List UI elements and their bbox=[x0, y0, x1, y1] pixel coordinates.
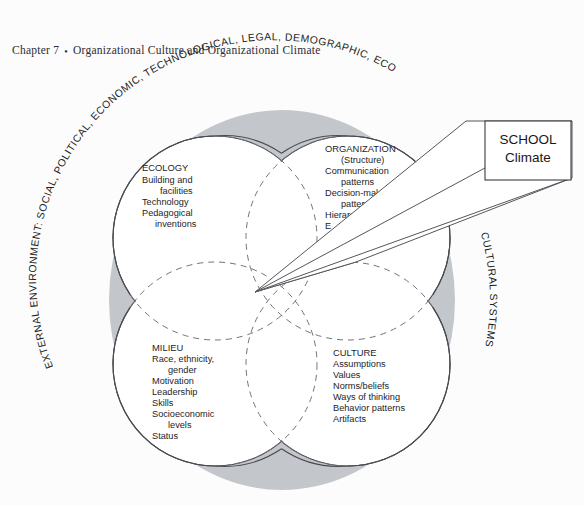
milieu-item-5: Socioeconomic bbox=[152, 409, 215, 419]
ecology-item-4: inventions bbox=[155, 219, 197, 229]
ecology-item-3: Pedagogical bbox=[142, 208, 193, 218]
culture-item-5: Artifacts bbox=[333, 414, 367, 424]
culture-item-2: Norms/beliefs bbox=[333, 381, 390, 391]
milieu-item-3: Leadership bbox=[152, 387, 197, 397]
cultural-systems-label-text: CULTURAL SYSTEMS bbox=[479, 231, 499, 348]
culture-item-4: Behavior patterns bbox=[333, 403, 405, 413]
culture-item-0: Assumptions bbox=[333, 359, 386, 369]
milieu-item-7: Status bbox=[152, 431, 178, 441]
page-canvas: Chapter 7•Organizational Culture and Org… bbox=[0, 0, 584, 505]
ecology-item-2: Technology bbox=[142, 197, 189, 207]
ecology-item-0: Building and bbox=[142, 175, 193, 185]
cultural-systems-label: CULTURAL SYSTEMS bbox=[479, 231, 499, 348]
culture-item-3: Ways of thinking bbox=[333, 392, 400, 402]
school-climate-venn-figure: EXTERNAL ENVIRONMENT: SOCIAL, POLITICAL,… bbox=[0, 0, 584, 505]
milieu-item-2: Motivation bbox=[152, 376, 194, 386]
ecology-title: ECOLOGY bbox=[142, 162, 189, 173]
school-climate-line2: Climate bbox=[505, 150, 551, 165]
organization-item-1: Communication bbox=[325, 166, 389, 176]
culture-item-1: Values bbox=[333, 370, 361, 380]
organization-item-2: patterns bbox=[341, 177, 375, 187]
milieu-item-6: levels bbox=[168, 420, 192, 430]
organization-item-0: (Structure) bbox=[341, 155, 384, 165]
milieu-item-4: Skills bbox=[152, 398, 174, 408]
milieu-title: MILIEU bbox=[152, 342, 183, 353]
culture-title: CULTURE bbox=[333, 347, 377, 358]
school-climate-line1: SCHOOL bbox=[499, 132, 557, 147]
organization-title: ORGANIZATION bbox=[325, 143, 396, 154]
milieu-item-1: gender bbox=[168, 365, 197, 375]
school-climate-callout[interactable]: SCHOOL Climate bbox=[485, 121, 571, 180]
milieu-item-0: Race, ethnicity, bbox=[152, 354, 214, 364]
organization-item-6: E bbox=[325, 221, 331, 231]
ecology-item-1: facilities bbox=[160, 186, 193, 196]
